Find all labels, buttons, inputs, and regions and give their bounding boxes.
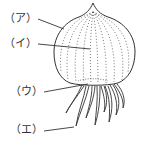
label-a: （ア） xyxy=(4,12,37,25)
leader-lines xyxy=(38,19,90,131)
label-i: （イ） xyxy=(4,37,37,50)
leader-line-e xyxy=(44,127,74,131)
roots xyxy=(66,84,124,126)
label-u: （ウ） xyxy=(10,85,43,98)
leader-line-u xyxy=(44,84,88,92)
leader-line-i xyxy=(38,44,90,49)
stem-base xyxy=(78,79,108,81)
leader-line-a xyxy=(38,19,64,29)
label-e: （エ） xyxy=(10,123,43,136)
